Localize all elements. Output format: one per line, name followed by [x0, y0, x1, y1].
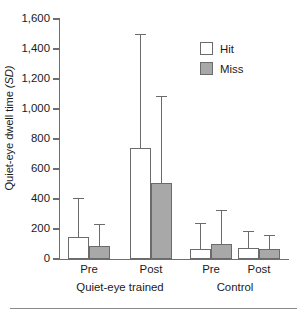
error-bar-cap — [216, 210, 227, 211]
x-axis-group-label-0: Quiet-eye trained — [55, 281, 185, 293]
bar-miss-pre-0 — [89, 246, 110, 259]
error-bar-cap — [135, 34, 146, 35]
y-axis-tick-label: 600 — [0, 162, 50, 174]
y-axis-tick-label: 1,000 — [0, 102, 50, 114]
error-bar-cap — [73, 198, 84, 199]
y-axis-tick-label: 1,600 — [0, 12, 50, 24]
error-bar-cap — [264, 235, 275, 236]
bar-hit-pre-2 — [190, 249, 211, 260]
y-axis-tick-label: 1,400 — [0, 42, 50, 54]
error-bar-cap — [243, 231, 254, 232]
bar-hit-pre-0 — [68, 237, 89, 259]
bar-hit-post-1 — [130, 148, 151, 259]
chart-legend: Hit Miss — [200, 40, 243, 80]
error-bar-stem — [161, 96, 162, 183]
x-axis-tick-label-1: Post — [121, 263, 181, 275]
bar-miss-post-3 — [259, 249, 280, 259]
error-bar-cap — [156, 96, 167, 97]
legend-label-miss: Miss — [220, 63, 243, 75]
bar-miss-post-1 — [151, 183, 172, 260]
error-bar-cap — [195, 223, 206, 224]
legend-item-miss: Miss — [200, 60, 243, 77]
legend-item-hit: Hit — [200, 40, 243, 57]
error-bar-stem — [78, 198, 79, 237]
legend-label-hit: Hit — [220, 43, 234, 55]
legend-swatch-miss-icon — [200, 62, 213, 75]
plot-area — [59, 19, 289, 259]
y-axis-tick-label: 200 — [0, 222, 50, 234]
error-bar-stem — [221, 210, 222, 245]
error-bar-stem — [140, 34, 141, 148]
error-bar-cap — [94, 224, 105, 225]
y-axis-tick-label: 1,200 — [0, 72, 50, 84]
bar-hit-post-3 — [238, 248, 259, 259]
chart-figure: Quiet-eye dwell time (SD) 02004006008001… — [0, 0, 307, 316]
error-bar-stem — [200, 223, 201, 249]
legend-swatch-hit-icon — [200, 42, 213, 55]
y-axis-tick-label: 0 — [0, 252, 50, 264]
error-bar-stem — [248, 231, 249, 248]
error-bar-stem — [269, 235, 270, 249]
x-axis-tick-label-0: Pre — [59, 263, 119, 275]
error-bar-stem — [99, 224, 100, 247]
x-axis-group-label-1: Control — [170, 281, 300, 293]
figure-bottom-rule — [10, 308, 297, 309]
x-axis-tick-label-3: Post — [229, 263, 289, 275]
bar-miss-pre-2 — [211, 244, 232, 259]
y-axis-tick-label: 800 — [0, 132, 50, 144]
y-axis-tick-label: 400 — [0, 192, 50, 204]
